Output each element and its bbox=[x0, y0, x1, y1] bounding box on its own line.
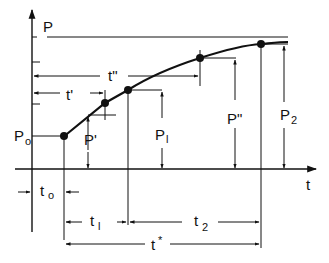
svg-text:P": P" bbox=[227, 110, 242, 127]
t2-interval: t 2 bbox=[130, 212, 259, 233]
point-p-double-prime bbox=[196, 54, 204, 62]
p-prime-measure: P' bbox=[84, 117, 97, 168]
t1-interval: t l bbox=[66, 212, 126, 232]
svg-text:o: o bbox=[25, 135, 31, 147]
point-p2 bbox=[257, 40, 265, 48]
svg-text:t: t bbox=[194, 212, 199, 229]
svg-text:P: P bbox=[14, 127, 24, 144]
p1-measure: P l bbox=[155, 92, 168, 168]
svg-text:t: t bbox=[151, 236, 156, 253]
point-p1 bbox=[124, 86, 132, 94]
point-p-prime bbox=[101, 99, 109, 107]
svg-text:P': P' bbox=[84, 131, 97, 148]
y-axis-ticks bbox=[32, 62, 40, 104]
svg-text:P: P bbox=[280, 106, 290, 123]
t0-interval: t o bbox=[18, 182, 79, 201]
svg-text:o: o bbox=[48, 189, 54, 201]
p-double-prime-measure: P" bbox=[227, 60, 242, 168]
svg-text:t: t bbox=[90, 212, 95, 229]
svg-text:t': t' bbox=[66, 86, 73, 103]
svg-text:l: l bbox=[98, 220, 100, 232]
svg-text:2: 2 bbox=[291, 114, 297, 126]
svg-text:2: 2 bbox=[202, 221, 208, 233]
growth-diagram: t P P o bbox=[0, 0, 329, 263]
t-axis: t bbox=[15, 169, 316, 193]
point-p0 bbox=[60, 132, 68, 140]
p0-label: P o bbox=[14, 127, 31, 147]
t-prime-interval: t' bbox=[34, 86, 103, 103]
asymptote-line: P bbox=[32, 18, 288, 37]
t-star-interval: t * bbox=[66, 234, 259, 253]
asymptote-label: P bbox=[43, 18, 53, 35]
svg-text:l: l bbox=[166, 133, 168, 145]
svg-text:*: * bbox=[158, 234, 163, 246]
p2-measure: P 2 bbox=[280, 46, 297, 168]
t-axis-label: t bbox=[306, 176, 311, 193]
t-double-prime-interval: t" bbox=[34, 67, 198, 84]
svg-text:t: t bbox=[40, 182, 45, 199]
svg-text:t": t" bbox=[108, 67, 118, 84]
growth-curve bbox=[62, 42, 288, 138]
svg-text:P: P bbox=[155, 126, 165, 143]
